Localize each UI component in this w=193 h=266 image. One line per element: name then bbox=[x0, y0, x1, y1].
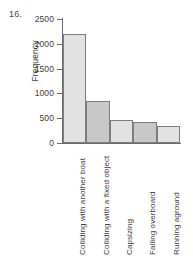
x-axis-category-label: Falling overboard bbox=[148, 191, 157, 255]
y-axis-tick-mark bbox=[57, 69, 62, 70]
y-axis-tick-label: 1500 bbox=[14, 64, 54, 74]
bar-chart-figure: 16. Frequency 05001000150020002500 Colli… bbox=[0, 0, 193, 266]
y-axis-tick-labels: 05001000150020002500 bbox=[12, 0, 54, 266]
y-axis-tick-mark bbox=[57, 118, 62, 119]
bar bbox=[110, 120, 133, 143]
bar bbox=[63, 34, 86, 143]
y-axis-tick-label: 2000 bbox=[14, 39, 54, 49]
y-axis-tick-label: 1000 bbox=[14, 88, 54, 98]
x-axis-category-label: Capsizing bbox=[125, 219, 134, 255]
bar bbox=[133, 122, 156, 143]
y-axis-tick-mark bbox=[57, 19, 62, 20]
y-axis-tick-mark bbox=[57, 44, 62, 45]
y-axis-tick-label: 0 bbox=[14, 138, 54, 148]
y-axis-tick-label: 2500 bbox=[14, 14, 54, 24]
plot-area bbox=[63, 19, 180, 143]
bar bbox=[157, 126, 180, 143]
x-axis-category-label: Running aground bbox=[172, 192, 181, 255]
y-axis-tick-label: 500 bbox=[14, 113, 54, 123]
y-axis-tick-mark bbox=[57, 93, 62, 94]
x-axis-line bbox=[62, 143, 181, 144]
y-axis-tick-mark bbox=[57, 143, 62, 144]
x-axis-category-label: Colliding with another boat bbox=[78, 158, 87, 255]
x-axis-category-label: Colliding with a fixed object bbox=[102, 156, 111, 255]
bar bbox=[86, 101, 109, 143]
